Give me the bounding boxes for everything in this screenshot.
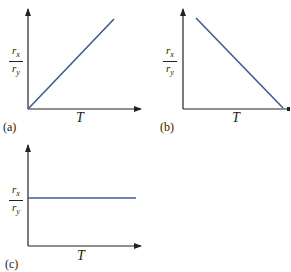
- panel-label-c: (c): [5, 257, 18, 272]
- panel-label-a: (a): [3, 120, 16, 135]
- panel-a: [28, 9, 141, 109]
- panel-label-b: (b): [160, 120, 174, 135]
- panel-b: [183, 9, 290, 111]
- x-label-b: T: [232, 110, 240, 126]
- x-axis-end: [287, 107, 290, 111]
- charts-canvas: [0, 0, 291, 272]
- y-label-a: rx ry: [9, 45, 23, 78]
- x-label-c: T: [77, 248, 85, 264]
- y-label-c: rx ry: [9, 184, 23, 217]
- panel-c: [28, 145, 141, 246]
- y-label-b: rx ry: [163, 45, 177, 78]
- x-label-a: T: [76, 110, 84, 126]
- data-line: [196, 18, 283, 108]
- data-line: [28, 19, 114, 109]
